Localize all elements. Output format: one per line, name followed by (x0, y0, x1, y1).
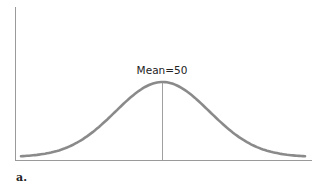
mean-annotation: Mean=50 (137, 64, 188, 76)
panel-label: a. (16, 171, 27, 184)
normal-distribution-chart: Mean=50 a. (0, 0, 322, 185)
